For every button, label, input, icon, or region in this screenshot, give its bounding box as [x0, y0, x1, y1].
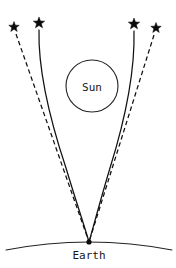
star-right-true-icon — [128, 18, 139, 29]
ray-left-straight-dashed — [16, 34, 89, 242]
lensing-diagram: Sun Earth — [0, 0, 176, 268]
sun-label: Sun — [82, 81, 102, 94]
star-right-apparent-icon — [151, 23, 161, 33]
star-left-apparent-icon — [9, 22, 19, 32]
earth-label: Earth — [72, 249, 105, 262]
diagram-canvas: Sun Earth — [0, 0, 176, 268]
star-left-true-icon — [33, 17, 44, 28]
ray-right-straight-dashed — [89, 35, 154, 242]
observer-point — [86, 239, 91, 244]
ray-right-deflected-solid — [89, 31, 134, 242]
